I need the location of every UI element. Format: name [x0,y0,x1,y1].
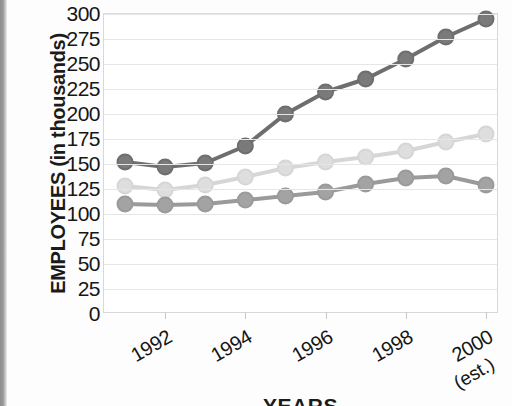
y-tick-label: 275 [44,28,100,49]
series-line [125,176,486,205]
y-tick-label: 250 [44,53,100,74]
gridline [104,14,497,15]
y-tick-label: 0 [44,303,100,324]
x-axis-title: YEARS [103,394,498,406]
gridline [104,289,497,290]
gridline [104,89,497,90]
y-tick-label: 175 [44,128,100,149]
x-tick-label: 1994 [207,325,256,367]
plot-area [103,13,498,313]
gridline [104,239,497,240]
y-tick-label: 100 [44,203,100,224]
data-point-marker [118,179,133,194]
data-point-marker [278,161,293,176]
x-tick-label: 1998 [368,325,417,367]
gridline [104,264,497,265]
data-point-marker [158,160,173,175]
gridline [104,64,497,65]
data-point-marker [238,139,253,154]
data-point-marker [198,197,213,212]
data-point-marker [318,85,333,100]
data-point-marker [198,156,213,171]
line-series [118,127,494,198]
gridline [104,189,497,190]
gridline [104,39,497,40]
data-point-marker [158,198,173,213]
data-point-marker [238,193,253,208]
data-point-marker [438,30,453,45]
data-point-marker [438,169,453,184]
data-point-marker [198,178,213,193]
x-tick-label: 1992 [127,325,176,367]
data-point-marker [398,171,413,186]
chart-page: EMPLOYEES (in thousands) 300275250225200… [0,0,512,406]
data-point-marker [358,72,373,87]
y-axis-tick-labels: 3002752502252001751501251007550250 [44,0,100,330]
y-tick-label: 150 [44,153,100,174]
data-point-marker [118,155,133,170]
y-tick-label: 225 [44,78,100,99]
data-point-marker [278,189,293,204]
y-tick-label: 200 [44,103,100,124]
gridline [104,214,497,215]
y-tick-label: 300 [44,3,100,24]
series-line [125,134,486,190]
y-tick-label: 75 [44,228,100,249]
data-point-marker [479,178,494,193]
gridline [104,114,497,115]
data-point-marker [438,135,453,150]
scan-edge-artifact [0,0,7,406]
data-point-marker [238,170,253,185]
data-point-marker [118,197,133,212]
gridline [104,139,497,140]
y-tick-label: 25 [44,278,100,299]
data-point-marker [398,144,413,159]
y-tick-label: 50 [44,253,100,274]
x-tick-label: 1996 [288,325,337,367]
y-tick-label: 125 [44,178,100,199]
x-axis-tick-labels: 19921994199619982000(est.) [103,313,512,403]
data-point-marker [158,183,173,198]
data-point-marker [358,150,373,165]
data-point-marker [318,185,333,200]
line-series [118,12,494,175]
gridline [104,164,497,165]
data-point-marker [318,155,333,170]
